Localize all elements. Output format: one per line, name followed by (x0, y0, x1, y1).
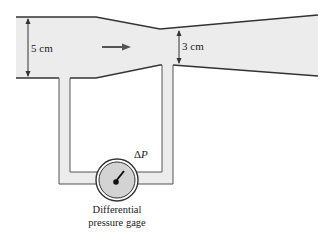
pressure-symbol: P (140, 148, 148, 160)
venturi-meter-diagram: 5 cm 3 cm ΔP Differential pressure gage (0, 0, 331, 244)
gage-caption-line1: Differential (93, 204, 142, 215)
inlet-diameter-label: 5 cm (31, 42, 53, 54)
throat-diameter-label: 3 cm (182, 40, 204, 52)
gage-pivot (113, 179, 119, 185)
delta-p-label: ΔP (134, 148, 148, 160)
tubing-inner-wall (70, 65, 162, 172)
delta-symbol: Δ (134, 148, 141, 160)
gage-caption-line2: pressure gage (88, 217, 146, 228)
differential-pressure-gage (96, 159, 138, 201)
